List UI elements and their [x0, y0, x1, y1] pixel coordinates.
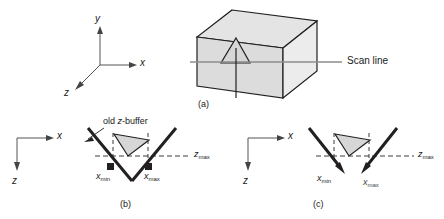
panel-b-xmax-base: x	[144, 171, 149, 181]
panel-c-zmax-sub: max	[423, 154, 434, 160]
panel-b-xmin-label: xmin	[96, 172, 110, 181]
panel-a-box	[197, 10, 317, 98]
panel-b-xmax-label: xmax	[144, 172, 160, 181]
panel-a-z-axis-label: z	[64, 88, 69, 98]
panel-b-markers	[107, 163, 152, 170]
panel-c-xmax-base: x	[363, 177, 368, 187]
panel-b-x-axis-label: x	[57, 131, 62, 141]
panel-a-caption: (a)	[198, 100, 209, 109]
panel-a-x-axis-label: x	[140, 58, 145, 68]
panel-c-zmax-label: zmax	[418, 150, 434, 159]
panel-b-annotation-arrow	[84, 128, 104, 142]
old-z-buffer-post: -buffer	[122, 116, 148, 126]
panel-c-xmin-base: x	[317, 173, 322, 183]
panel-a-axes	[75, 26, 137, 90]
panel-c-caption: (c)	[313, 200, 324, 209]
panel-b-dashed-guides	[95, 133, 190, 160]
panel-b-xmax-sub: max	[149, 176, 160, 182]
panel-b-zmax-label: zmax	[194, 150, 210, 159]
old-z-buffer-pre: old	[103, 116, 118, 126]
panel-c-triangle	[335, 134, 370, 156]
panel-b-triangle	[114, 134, 149, 156]
figure-container: x y z Scan line (a) x z old z-buffer xmi…	[0, 0, 444, 219]
old-z-buffer-annotation: old z-buffer	[103, 117, 148, 126]
panel-c-right-ray	[361, 128, 397, 174]
panel-c-axes	[245, 135, 285, 171]
panel-b-xmin-base: x	[96, 171, 101, 181]
panel-c-xmax-label: xmax	[363, 178, 379, 187]
panel-c-z-axis-label: z	[243, 176, 248, 186]
panel-b-z-axis-label: z	[12, 176, 17, 186]
panel-c-x-axis-label: x	[288, 131, 293, 141]
panel-b-axes	[14, 135, 54, 171]
scan-line-label: Scan line	[347, 56, 388, 66]
panel-b-zmax-sub: max	[199, 154, 210, 160]
panel-c-xmin-sub: min	[322, 178, 332, 184]
panel-b-caption: (b)	[120, 200, 131, 209]
panel-a-y-axis-label: y	[95, 14, 100, 24]
panel-b-xmin-sub: min	[101, 176, 111, 182]
panel-c-xmax-sub: max	[368, 182, 379, 188]
panel-c-zmax-base: z	[418, 149, 423, 159]
panel-c-xmin-label: xmin	[317, 174, 331, 183]
panel-b-zmax-base: z	[194, 149, 199, 159]
